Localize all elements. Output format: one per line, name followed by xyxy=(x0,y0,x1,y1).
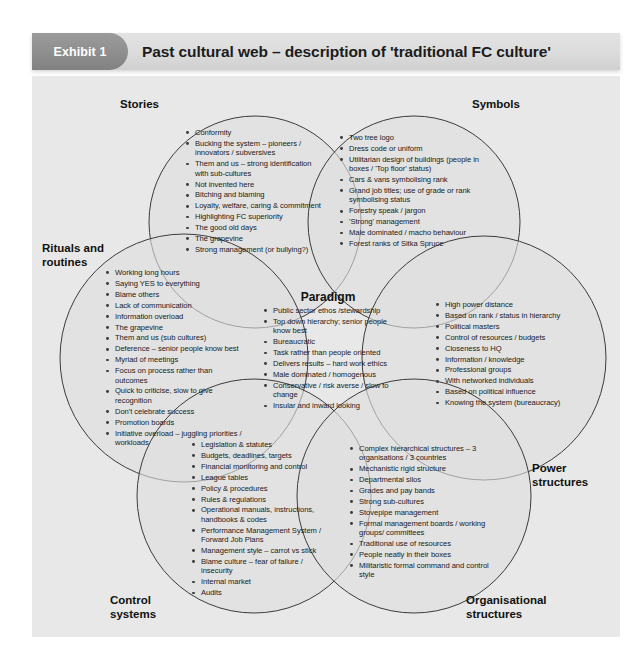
list-item: Management style – carrot vs stick xyxy=(192,546,332,555)
list-item: Public sector ethos /stewardship xyxy=(264,306,392,315)
list-item: Them and us (sub cultures) xyxy=(106,333,244,342)
list-item: Deference – senior people know best xyxy=(106,344,244,353)
list-item: Forestry speak / jargon xyxy=(340,206,492,215)
symbols-items: Two tree logoDress code or uniformUtilit… xyxy=(340,133,492,248)
list-item: Grades and pay bands xyxy=(350,486,490,495)
label-symbols: Symbols xyxy=(472,98,520,112)
list-item: Dress code or uniform xyxy=(340,144,492,153)
list-item: Myriad of meetings xyxy=(106,355,244,364)
control-items: Legislation & statutesBudgets, deadlines… xyxy=(192,440,332,598)
list-item: Blame others xyxy=(106,290,244,299)
exhibit-number-badge: Exhibit 1 xyxy=(32,33,128,70)
list-item: Top down hierarchy; senior people know b… xyxy=(264,317,392,336)
list-item: Lack of communication xyxy=(106,301,244,310)
list-item: Policy & procedures xyxy=(192,484,332,493)
list-item: Saying YES to everything xyxy=(106,279,244,288)
list-item: Not invented here xyxy=(186,180,326,189)
list-item: Departmental silos xyxy=(350,475,490,484)
cultural-web-diagram: Stories Symbols Rituals and routines Pow… xyxy=(32,76,620,637)
list-item: Based on rank / status in hierarchy xyxy=(436,311,572,320)
list-item: Them and us – strong identification with… xyxy=(186,159,326,178)
list-item: Bucking the system – pioneers / innovato… xyxy=(186,139,326,158)
list-item: Bureaucratic xyxy=(264,337,392,346)
list-item: Conformity xyxy=(186,128,326,137)
list-item: Formal management boards / working group… xyxy=(350,519,490,538)
paradigm-title: Paradigm xyxy=(264,290,392,304)
diagram-panel: Stories Symbols Rituals and routines Pow… xyxy=(32,76,620,637)
list-item: High power distance xyxy=(436,300,572,309)
list-item: With networked individuals xyxy=(436,376,572,385)
list-item: Strong management (or bullying?) xyxy=(186,245,326,254)
list-item: Closeness to HQ xyxy=(436,344,572,353)
list-item: Two tree logo xyxy=(340,133,492,142)
exhibit-title: Past cultural web – description of 'trad… xyxy=(142,33,551,70)
list-item: The grapevine xyxy=(106,323,244,332)
list-item: Focus on process rather than outcomes xyxy=(106,366,244,385)
list-item: Promotion boards xyxy=(106,418,244,427)
list-item: Bitching and blaming xyxy=(186,190,326,199)
list-rituals-and-routines: Working long hoursSaying YES to everythi… xyxy=(106,268,244,449)
list-item: The grapevine xyxy=(186,234,326,243)
list-item: Loyalty, welfare, caring & commitment xyxy=(186,201,326,210)
list-control-systems: Legislation & statutesBudgets, deadlines… xyxy=(192,440,332,599)
list-item: Male dominated / macho behaviour xyxy=(340,228,492,237)
exhibit-page: Exhibit 1 Past cultural web – descriptio… xyxy=(0,0,643,659)
list-item: Financial monitoring and control xyxy=(192,462,332,471)
list-item: Based on political influence xyxy=(436,387,572,396)
list-item: Information overload xyxy=(106,312,244,321)
stories-items: ConformityBucking the system – pioneers … xyxy=(186,128,326,254)
list-item: Performance Management System / Forward … xyxy=(192,526,332,545)
list-item: Conservative / risk averse / slow to cha… xyxy=(264,381,392,400)
list-item: Traditional use of resources xyxy=(350,539,490,548)
list-item: Strong sub-cultures xyxy=(350,497,490,506)
list-item: People neatly in their boxes xyxy=(350,550,490,559)
label-stories: Stories xyxy=(120,98,159,112)
list-item: Highlighting FC superiority xyxy=(186,212,326,221)
rituals-items: Working long hoursSaying YES to everythi… xyxy=(106,268,244,447)
list-item: Militaristic formal command and control … xyxy=(350,561,490,580)
list-item: Information / knowledge xyxy=(436,355,572,364)
list-item: League tables xyxy=(192,473,332,482)
list-organisational-structures: Complex hierarchical structures – 3 orga… xyxy=(350,444,490,581)
paradigm-block: Paradigm Public sector ethos /stewardshi… xyxy=(264,290,392,412)
list-item: Professional groups xyxy=(436,365,572,374)
list-symbols: Two tree logoDress code or uniformUtilit… xyxy=(340,133,492,250)
list-item: Grand job titles; use of grade or rank s… xyxy=(340,186,492,205)
list-item: Legislation & statutes xyxy=(192,440,332,449)
list-item: Rules & regulations xyxy=(192,495,332,504)
label-power-structures: Power structures xyxy=(532,462,588,489)
list-power-structures: High power distanceBased on rank / statu… xyxy=(436,300,572,409)
label-control-systems: Control systems xyxy=(110,594,156,621)
list-item: Audits xyxy=(192,588,332,597)
list-item: Task rather than people oriented xyxy=(264,348,392,357)
list-item: Blame culture – fear of failure / insecu… xyxy=(192,557,332,576)
list-stories: ConformityBucking the system – pioneers … xyxy=(186,128,326,256)
list-item: Forest ranks of Sitka Spruce xyxy=(340,239,492,248)
list-item: Political masters xyxy=(436,322,572,331)
list-item: Operational manuals, instructions, handb… xyxy=(192,505,332,524)
list-item: Utilitarian design of buildings (people … xyxy=(340,155,492,174)
list-item: Cars & vans symbolising rank xyxy=(340,175,492,184)
list-item: Mechanistic rigid structure xyxy=(350,464,490,473)
list-item: Budgets, deadlines, targets xyxy=(192,451,332,460)
list-item: Knowing the system (bureaucracy) xyxy=(436,398,572,407)
list-item: Working long hours xyxy=(106,268,244,277)
organisational-items: Complex hierarchical structures – 3 orga… xyxy=(350,444,490,580)
power-items: High power distanceBased on rank / statu… xyxy=(436,300,572,408)
label-organisational-structures: Organisational structures xyxy=(466,594,547,621)
list-item: Complex hierarchical structures – 3 orga… xyxy=(350,444,490,463)
list-item: Don't celebrate success xyxy=(106,407,244,416)
list-item: Quick to criticise, slow to give recogni… xyxy=(106,386,244,405)
list-item: Control of resources / budgets xyxy=(436,333,572,342)
list-item: Insular and inward looking xyxy=(264,401,392,410)
paradigm-items: Public sector ethos /stewardshipTop down… xyxy=(264,306,392,411)
list-item: Internal market xyxy=(192,577,332,586)
list-item: Delivers results – hard work ethics xyxy=(264,359,392,368)
list-item: Male dominated / homogenous xyxy=(264,370,392,379)
list-item: Stovepipe management xyxy=(350,508,490,517)
list-item: The good old days xyxy=(186,223,326,232)
label-rituals-and-routines: Rituals and routines xyxy=(42,242,104,269)
exhibit-header: Exhibit 1 Past cultural web – descriptio… xyxy=(32,33,620,70)
list-item: 'Strong' management xyxy=(340,217,492,226)
